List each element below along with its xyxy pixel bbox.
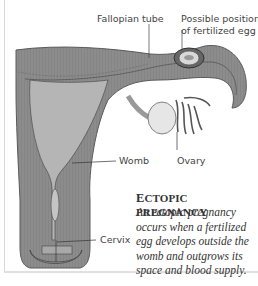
- label-ovary: Ovary: [177, 155, 205, 167]
- ovary: [148, 102, 176, 134]
- label-womb: Womb: [119, 155, 149, 167]
- label-possible-position-2: of fertilized egg: [181, 25, 256, 37]
- label-fallopian-tube: Fallopian tube: [97, 13, 164, 25]
- label-cervix: Cervix: [100, 234, 130, 246]
- label-possible-position-1: Possible position: [181, 13, 258, 25]
- fimbriae: [176, 97, 210, 134]
- caption-body: An ectopic pregnancy occurs when a ferti…: [136, 205, 256, 278]
